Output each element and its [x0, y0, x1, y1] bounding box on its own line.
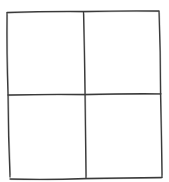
grid-cell-bottom-left [10, 96, 85, 178]
grid-cell-top-left [9, 14, 83, 94]
grid-cell-bottom-right [87, 95, 161, 177]
grid-cell-top-right [86, 13, 159, 93]
grid-diagram [0, 0, 169, 182]
